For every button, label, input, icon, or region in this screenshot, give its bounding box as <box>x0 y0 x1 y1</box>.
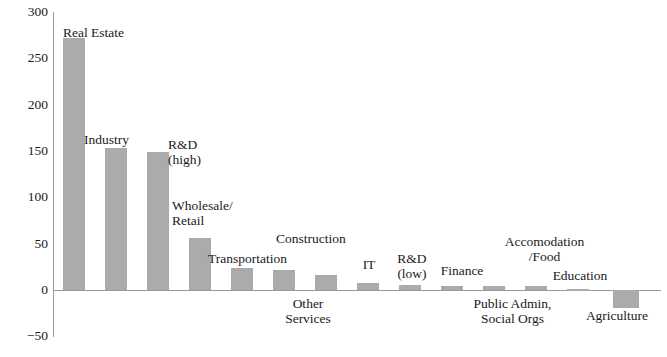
category-label: Finance <box>432 264 492 279</box>
y-tick-label: 200 <box>4 98 48 112</box>
y-tick-label: −50 <box>4 329 48 343</box>
bar <box>567 289 589 291</box>
y-tick-label: 150 <box>4 144 48 158</box>
y-tick-label: 100 <box>4 190 48 204</box>
bar-chart-plot: −50050100150200250300 Real EstateIndustr… <box>0 0 667 357</box>
bar <box>315 275 337 290</box>
bar <box>273 270 295 290</box>
category-label: IT <box>356 258 382 273</box>
y-tick-label: 250 <box>4 51 48 65</box>
category-label: Public Admin, Social Orgs <box>455 297 570 326</box>
category-label: Wholesale/ Retail <box>172 199 257 228</box>
bar <box>399 285 421 290</box>
bar <box>483 286 505 290</box>
bar <box>441 286 463 290</box>
bar <box>357 283 379 290</box>
category-label: Transportation <box>208 252 318 267</box>
category-label: Agriculture <box>572 309 662 324</box>
bar <box>525 286 547 290</box>
category-label: R&D (high) <box>168 138 238 167</box>
bar <box>63 38 85 290</box>
bar <box>105 148 127 290</box>
category-label: Real Estate <box>63 26 183 41</box>
category-label: Other Services <box>258 297 358 326</box>
category-label: Accomodation /Food <box>487 235 602 264</box>
y-tick-label: 50 <box>4 237 48 251</box>
y-axis-line <box>53 12 54 337</box>
chart-page: Unit: USD Billion −50050100150200250300 … <box>0 0 667 357</box>
y-tick-label: 300 <box>4 5 48 19</box>
category-label: Education <box>540 269 620 284</box>
category-label: Industry <box>84 133 174 148</box>
category-label: R&D (low) <box>392 252 432 281</box>
category-label: Construction <box>276 232 376 247</box>
y-tick-label: 0 <box>4 283 48 297</box>
bar <box>613 290 639 308</box>
bar <box>147 152 169 290</box>
bar <box>231 268 253 290</box>
